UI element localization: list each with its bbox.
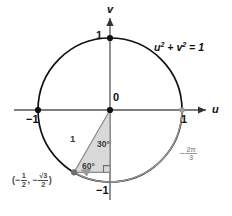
equation-exp-v: 2 [182,41,186,49]
equation-exp-u: 2 [160,41,164,49]
point-1-0 [179,107,185,113]
tick-label-u-left: −1 [26,114,39,125]
arc-angle-label: −2π3 [180,146,197,162]
arc-denominator: 3 [185,154,196,161]
point-comma: , [27,175,30,185]
arc-numerator: 2π [185,146,196,154]
arc-fraction: 2π3 [185,146,196,162]
terminal-point-label: (−12, −√32) [12,172,52,188]
point-minus-two: − [32,175,37,185]
origin-label: 0 [113,92,119,103]
v-axis-arrowhead [106,18,113,26]
circle-equation: u2 + v2 = 1 [154,42,204,53]
point-frac2-denominator: 2 [38,181,48,189]
point-fraction-half: 12 [21,172,27,188]
point-frac2-numerator: √3 [38,172,48,181]
point-frac1-denominator: 2 [21,181,27,189]
angle-60-label: 60° [82,162,95,171]
u-axis-arrowhead [198,106,206,113]
point-fraction-root3-over-2: √32 [38,172,48,188]
arc-minus-sign: − [180,148,185,158]
tick-label-v-top: 1 [96,30,102,41]
origin-point [107,107,113,113]
point-close-paren: ) [49,175,52,185]
equation-equals-one: = 1 [189,41,204,53]
hypotenuse-label: 1 [70,134,75,144]
u-axis-label: u [212,104,219,115]
terminal-point [71,169,77,175]
v-axis-label: v [107,4,113,15]
tick-label-u-right: 1 [181,114,187,125]
tick-label-v-bottom: −1 [96,185,109,196]
equation-plus: + [167,41,173,53]
point-open-paren: (− [12,175,20,185]
point-0-1 [107,35,113,41]
angle-30-label: 30° [97,140,110,149]
